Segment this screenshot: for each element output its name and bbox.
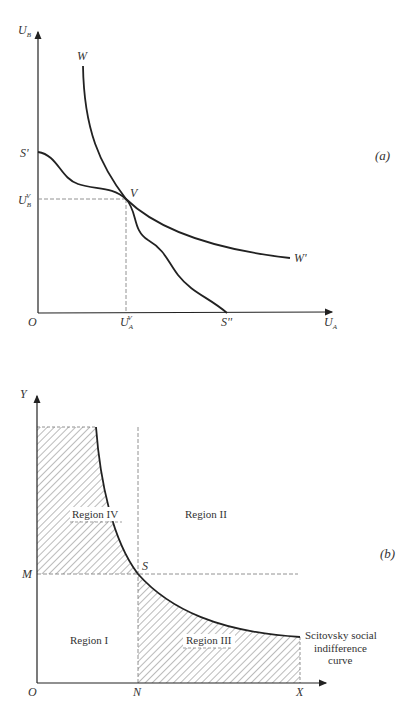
region-iv-hatch bbox=[37, 427, 138, 574]
curve-w-label: W bbox=[77, 49, 88, 63]
x-axis-label: UA bbox=[324, 315, 338, 331]
x-axis bbox=[38, 312, 332, 313]
region-ii-label: Region II bbox=[185, 508, 227, 520]
n-label: N bbox=[132, 685, 142, 699]
curve-label-line3: curve bbox=[328, 654, 353, 666]
region-iii-label: Region III bbox=[186, 634, 232, 646]
panel-a-tag: (a) bbox=[375, 148, 390, 163]
scitovsky-curve bbox=[96, 427, 300, 637]
frontier-end-label: S'' bbox=[221, 315, 233, 329]
y-axis-label: Y bbox=[20, 387, 28, 401]
w-curve bbox=[83, 66, 290, 258]
panel-a: UB W S' V UBV W' (a) O UAV S'' UA bbox=[18, 23, 390, 331]
panel-b-tag: (b) bbox=[380, 546, 395, 561]
ub-v-label: UBV bbox=[18, 192, 32, 209]
region-iv-label: Region IV bbox=[72, 508, 118, 520]
origin-label: O bbox=[28, 685, 37, 699]
region-iii-hatch bbox=[138, 574, 300, 683]
point-v-label: V bbox=[130, 186, 139, 200]
frontier-start-label: S' bbox=[20, 146, 29, 160]
m-label: M bbox=[21, 567, 33, 581]
ua-v-label: UAV bbox=[120, 314, 134, 331]
origin-label: O bbox=[28, 315, 37, 329]
curve-w-end-label: W' bbox=[294, 251, 307, 265]
y-axis-label: UB bbox=[18, 23, 32, 39]
curve-label-line1: Scitovsky social bbox=[305, 629, 377, 641]
region-i-label: Region I bbox=[70, 634, 109, 646]
curve-label-line2: indifference bbox=[314, 642, 367, 654]
point-s-label: S bbox=[142, 559, 148, 573]
x-axis-label: X bbox=[295, 685, 304, 699]
panel-b: Region IV Region II Region I Region III … bbox=[20, 387, 395, 699]
diagram-canvas: UB W S' V UBV W' (a) O UAV S'' UA Region… bbox=[0, 0, 415, 722]
utility-frontier bbox=[38, 152, 227, 313]
